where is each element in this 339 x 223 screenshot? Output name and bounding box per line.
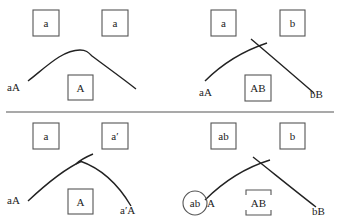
right-label: a′A (120, 204, 135, 216)
right-label: bB (310, 88, 323, 100)
left-label: aA (199, 86, 212, 98)
panel-bottom-left: a a′ aA A a′A (7, 123, 135, 216)
center-bracket-top (246, 190, 271, 195)
top-box-left-label: ab (218, 130, 229, 142)
top-box-right-label: a′ (111, 130, 118, 142)
center-box-label: AB (250, 82, 265, 94)
circle-label: ab (190, 197, 201, 209)
right-label: bB (312, 205, 325, 217)
panel-top-left: a a aA A (7, 10, 136, 100)
center-box-label: AB (251, 197, 266, 209)
left-label: A (207, 197, 215, 209)
top-box-right-label: b (290, 17, 296, 29)
left-branch-curve (205, 160, 270, 200)
top-box-left-label: a (44, 17, 49, 29)
right-branch-curve (80, 161, 131, 206)
center-box-label: A (77, 196, 85, 208)
center-bracket-bottom (246, 210, 271, 215)
left-label: aA (7, 194, 20, 206)
panel-bottom-right: ab b ab A AB bB (183, 123, 325, 217)
center-box-label: A (77, 82, 85, 94)
diagram-canvas: a a aA A a b aA AB bB a a′ aA A a′A (0, 0, 339, 223)
top-box-left-label: a (221, 17, 226, 29)
top-box-left-label: a (44, 130, 49, 142)
left-label: aA (7, 81, 20, 93)
top-box-right-label: a (113, 17, 118, 29)
left-branch-curve (28, 161, 82, 201)
panel-top-right: a b aA AB bB (199, 10, 323, 101)
top-box-right-label: b (290, 130, 296, 142)
